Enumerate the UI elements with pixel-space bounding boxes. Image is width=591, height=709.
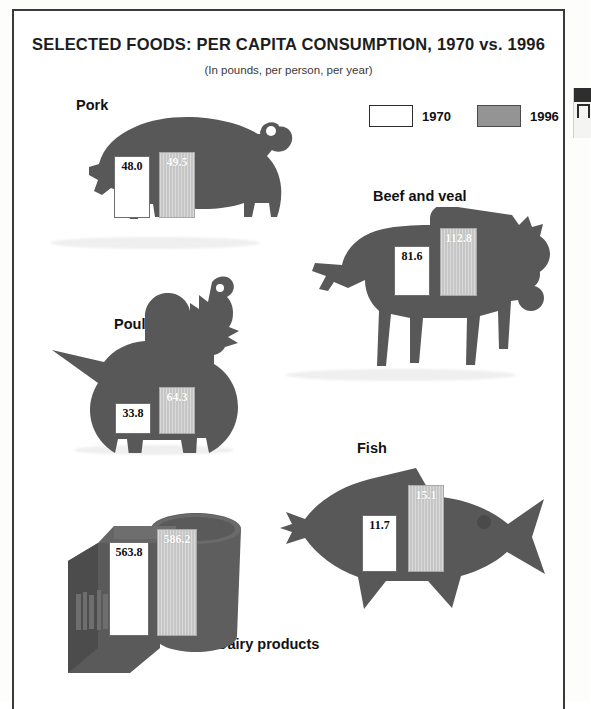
bar-fish-1996: 15.1 xyxy=(408,485,444,572)
scan-artifact-blob xyxy=(574,88,591,102)
bar-value-pork-1970: 48.0 xyxy=(115,160,149,173)
legend-label-1970: 1970 xyxy=(422,109,451,124)
bar-value-beef-1970: 81.6 xyxy=(395,250,429,263)
bar-pork-1970: 48.0 xyxy=(114,156,150,218)
bar-value-poultry-1970: 33.8 xyxy=(116,407,150,420)
page-title: SELECTED FOODS: PER CAPITA CONSUMPTION, … xyxy=(14,35,563,54)
adjacent-page-scan-artifact xyxy=(573,88,591,138)
bar-dairy-1996: 586.2 xyxy=(157,529,197,636)
group-label-fish: Fish xyxy=(357,440,387,456)
bar-poultry-1970: 33.8 xyxy=(115,403,151,434)
legend-swatch-1970 xyxy=(369,105,413,127)
bar-value-fish-1970: 11.7 xyxy=(363,519,396,532)
bar-value-pork-1996: 49.5 xyxy=(160,156,194,169)
chart-legend: 1970 1996 xyxy=(369,105,559,127)
chicken-silhouette xyxy=(42,273,262,453)
bar-beef-1970: 81.6 xyxy=(394,246,430,296)
bar-beef-1996: 112.8 xyxy=(440,228,477,296)
bar-pork-1996: 49.5 xyxy=(159,152,195,218)
bar-value-beef-1996: 112.8 xyxy=(441,232,476,245)
legend-swatch-1996 xyxy=(477,105,521,127)
bar-poultry-1996: 64.3 xyxy=(159,387,195,434)
legend-label-1996: 1996 xyxy=(530,109,559,124)
bar-fish-1970: 11.7 xyxy=(362,515,397,572)
bar-value-dairy-1970: 563.8 xyxy=(110,546,148,559)
bar-value-poultry-1996: 64.3 xyxy=(160,391,194,404)
bar-value-fish-1996: 15.1 xyxy=(409,489,443,502)
group-label-beef: Beef and veal xyxy=(373,188,467,204)
scan-artifact-glyph xyxy=(577,104,590,118)
milk-carton-and-glass xyxy=(54,506,244,681)
bar-value-dairy-1996: 586.2 xyxy=(158,533,196,546)
bar-dairy-1970: 563.8 xyxy=(109,542,149,636)
page-subtitle: (In pounds, per person, per year) xyxy=(14,64,563,76)
page-frame: SELECTED FOODS: PER CAPITA CONSUMPTION, … xyxy=(12,9,565,709)
